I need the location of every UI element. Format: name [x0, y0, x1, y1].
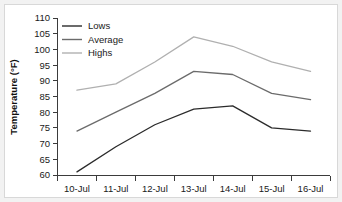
x-tick-label: 15-Jul — [259, 183, 285, 194]
y-tick-label: 70 — [39, 138, 50, 149]
x-tick-label: 12-Jul — [142, 183, 168, 194]
y-axis-title: Temperature (°F) — [8, 59, 19, 134]
y-tick-label: 75 — [39, 122, 50, 133]
series-line-average — [77, 71, 311, 131]
y-tick-label: 105 — [34, 28, 50, 39]
y-tick-label: 110 — [35, 12, 50, 23]
chart-frame: Temperature (°F) 11010510095908580757065… — [0, 0, 342, 202]
y-tick-label: 60 — [39, 169, 50, 180]
x-tick-label: 14-Jul — [220, 183, 246, 194]
y-tick-label: 100 — [34, 44, 50, 55]
legend-label: Lows — [88, 20, 110, 31]
temperature-line-chart: Temperature (°F) 11010510095908580757065… — [0, 0, 342, 202]
y-tick-label: 85 — [39, 91, 50, 102]
y-tick-label: 90 — [39, 75, 50, 86]
y-axis-ticks: 1101051009590858075706560 — [34, 12, 57, 180]
y-tick-label: 80 — [39, 107, 50, 118]
legend-item: Average — [62, 34, 123, 45]
legend-item: Highs — [62, 47, 113, 58]
x-axis-ticks: 10-Jul11-Jul12-Jul13-Jul14-Jul15-Jul16-J… — [58, 176, 331, 195]
chart-legend: LowsAverageHighs — [62, 20, 123, 58]
series-line-lows — [77, 106, 311, 172]
x-tick-label: 10-Jul — [64, 183, 90, 194]
x-tick-label: 16-Jul — [298, 183, 324, 194]
y-tick-label: 95 — [39, 60, 50, 71]
x-tick-label: 11-Jul — [103, 183, 128, 194]
x-tick-label: 13-Jul — [181, 183, 207, 194]
legend-label: Average — [88, 34, 123, 45]
legend-item: Lows — [62, 20, 110, 31]
y-tick-label: 65 — [39, 154, 50, 165]
legend-label: Highs — [88, 47, 113, 58]
